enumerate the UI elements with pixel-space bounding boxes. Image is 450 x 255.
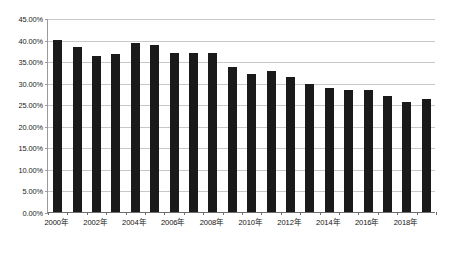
bar: [92, 56, 101, 212]
y-axis-tick: [45, 191, 48, 192]
x-axis-tick: [358, 212, 359, 215]
y-axis-tick: [45, 170, 48, 171]
y-axis-label: 40.00%: [0, 36, 43, 45]
y-axis-label: 10.00%: [0, 165, 43, 174]
x-axis-label: 2006年: [161, 216, 185, 227]
bar: [344, 90, 353, 212]
bar: [73, 47, 82, 212]
bar: [111, 54, 120, 212]
x-axis-tick: [87, 212, 88, 215]
gridline: [48, 127, 435, 128]
bar: [247, 74, 256, 212]
x-axis-label: 2014年: [316, 216, 340, 227]
x-axis-tick: [281, 212, 282, 215]
x-axis-label: 2002年: [83, 216, 107, 227]
y-axis-tick: [45, 127, 48, 128]
bar: [189, 53, 198, 213]
gridline: [48, 19, 435, 20]
x-axis-tick: [164, 212, 165, 215]
y-axis-label: 0.00%: [0, 209, 43, 218]
bar-chart: 0.00%5.00%10.00%15.00%20.00%25.00%30.00%…: [0, 0, 450, 255]
x-axis-tick: [67, 212, 68, 215]
y-axis-tick: [45, 41, 48, 42]
gridline: [48, 170, 435, 171]
bar: [325, 88, 334, 212]
gridline: [48, 191, 435, 192]
bar: [305, 84, 314, 212]
y-axis-tick: [45, 19, 48, 20]
x-axis-tick: [397, 212, 398, 215]
y-axis-label: 45.00%: [0, 15, 43, 24]
x-axis-tick: [106, 212, 107, 215]
gridline: [48, 84, 435, 85]
x-axis-tick: [184, 212, 185, 215]
gridline: [48, 105, 435, 106]
bar: [53, 40, 62, 212]
x-axis-label: 2000年: [44, 216, 68, 227]
x-axis-tick: [145, 212, 146, 215]
x-axis-tick: [48, 212, 49, 215]
bar: [131, 43, 140, 212]
y-axis-label: 20.00%: [0, 122, 43, 131]
y-axis-label: 25.00%: [0, 101, 43, 110]
gridline: [48, 148, 435, 149]
bar: [402, 102, 411, 212]
x-axis-label: 2004年: [122, 216, 146, 227]
x-axis-tick: [417, 212, 418, 215]
bar: [422, 99, 431, 212]
x-axis-tick: [339, 212, 340, 215]
y-axis-tick: [45, 105, 48, 106]
x-axis-tick: [126, 212, 127, 215]
x-axis-tick: [436, 212, 437, 215]
gridline: [48, 62, 435, 63]
x-axis-label: 2018年: [394, 216, 418, 227]
x-axis-tick: [300, 212, 301, 215]
plot-area: [47, 19, 435, 213]
bar: [208, 53, 217, 213]
x-axis-label: 2016年: [355, 216, 379, 227]
bar: [228, 67, 237, 212]
bar: [267, 71, 276, 212]
y-axis-label: 35.00%: [0, 58, 43, 67]
y-axis-tick: [45, 148, 48, 149]
y-axis-label: 5.00%: [0, 187, 43, 196]
x-axis-label: 2012年: [277, 216, 301, 227]
y-axis-tick: [45, 62, 48, 63]
x-axis-label: 2008年: [200, 216, 224, 227]
gridline: [48, 41, 435, 42]
x-axis-labels: 2000年2002年2004年2006年2008年2010年2012年2014年…: [47, 216, 435, 236]
x-axis-tick: [223, 212, 224, 215]
x-axis-tick: [320, 212, 321, 215]
bar: [150, 45, 159, 212]
y-axis-label: 30.00%: [0, 79, 43, 88]
x-axis-label: 2010年: [238, 216, 262, 227]
bar: [286, 77, 295, 212]
bar: [170, 53, 179, 213]
y-axis-label: 15.00%: [0, 144, 43, 153]
x-axis-tick: [203, 212, 204, 215]
x-axis-tick: [261, 212, 262, 215]
y-axis-tick: [45, 84, 48, 85]
bar: [364, 90, 373, 212]
bar: [383, 96, 392, 212]
x-axis-tick: [242, 212, 243, 215]
x-axis-tick: [378, 212, 379, 215]
